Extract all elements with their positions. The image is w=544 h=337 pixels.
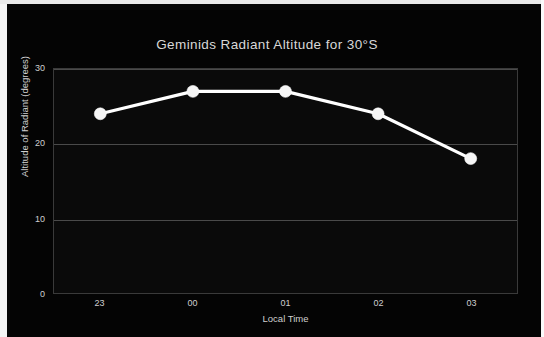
y-tick-label: 0	[40, 289, 45, 299]
x-axis-title: Local Time	[53, 313, 518, 324]
data-point-marker	[187, 85, 199, 97]
screenshot-root: Geminids Radiant Altitude for 30°S Altit…	[0, 0, 544, 337]
x-tick-label: 03	[466, 298, 476, 308]
data-point-marker	[280, 85, 292, 97]
data-series-layer	[54, 69, 517, 293]
data-point-marker	[94, 108, 106, 120]
page-frame-left-edge	[0, 0, 7, 337]
data-point-marker	[465, 153, 477, 165]
y-tick-label: 10	[35, 214, 45, 224]
data-line	[100, 91, 470, 158]
x-tick-label: 02	[373, 298, 383, 308]
y-tick-label: 30	[35, 63, 45, 73]
x-tick-label: 01	[280, 298, 290, 308]
x-axis-tick-labels: 2300010203	[53, 298, 518, 312]
data-point-marker	[372, 108, 384, 120]
x-tick-label: 23	[94, 298, 104, 308]
chart-title: Geminids Radiant Altitude for 30°S	[7, 37, 527, 52]
y-axis-tick-labels: 0102030	[15, 68, 49, 294]
x-tick-label: 00	[187, 298, 197, 308]
chart-canvas: Geminids Radiant Altitude for 30°S Altit…	[7, 4, 541, 337]
y-tick-label: 20	[35, 138, 45, 148]
plot-area	[53, 68, 518, 294]
